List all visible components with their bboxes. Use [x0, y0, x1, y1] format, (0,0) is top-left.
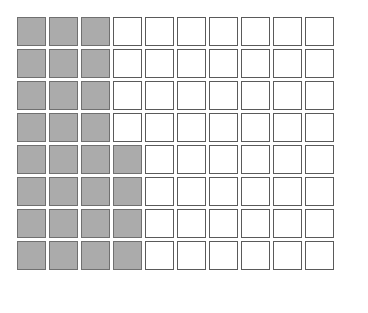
grid-cell-shaded[interactable] — [81, 209, 110, 238]
grid-cell-empty[interactable] — [177, 113, 206, 142]
grid-cell-empty[interactable] — [145, 49, 174, 78]
grid-cell-empty[interactable] — [241, 209, 270, 238]
grid-cell-empty[interactable] — [209, 49, 238, 78]
grid-cell-shaded[interactable] — [49, 177, 78, 206]
grid-row — [17, 177, 334, 206]
grid-cell-empty[interactable] — [177, 17, 206, 46]
grid-row — [17, 17, 334, 46]
grid-cell-shaded[interactable] — [81, 17, 110, 46]
grid-cell-empty[interactable] — [305, 145, 334, 174]
grid-cell-empty[interactable] — [113, 81, 142, 110]
grid-cell-empty[interactable] — [145, 241, 174, 270]
grid-cell-shaded[interactable] — [113, 145, 142, 174]
grid-cell-shaded[interactable] — [17, 209, 46, 238]
grid-cell-empty[interactable] — [305, 81, 334, 110]
grid-cell-empty[interactable] — [241, 81, 270, 110]
grid-cell-empty[interactable] — [241, 145, 270, 174]
grid-cell-empty[interactable] — [177, 241, 206, 270]
grid-cell-shaded[interactable] — [113, 177, 142, 206]
grid-cell-empty[interactable] — [273, 177, 302, 206]
grid-row — [17, 113, 334, 142]
grid-cell-shaded[interactable] — [113, 209, 142, 238]
grid-cell-empty[interactable] — [209, 17, 238, 46]
grid-cell-shaded[interactable] — [81, 145, 110, 174]
grid-cell-empty[interactable] — [145, 177, 174, 206]
grid-cell-empty[interactable] — [145, 209, 174, 238]
grid-cell-shaded[interactable] — [49, 113, 78, 142]
square-grid — [17, 17, 334, 270]
grid-cell-empty[interactable] — [209, 145, 238, 174]
grid-row — [17, 145, 334, 174]
grid-cell-empty[interactable] — [273, 113, 302, 142]
grid-cell-shaded[interactable] — [49, 145, 78, 174]
grid-cell-shaded[interactable] — [17, 177, 46, 206]
grid-cell-empty[interactable] — [241, 113, 270, 142]
grid-row — [17, 49, 334, 78]
grid-cell-empty[interactable] — [273, 17, 302, 46]
grid-cell-empty[interactable] — [145, 81, 174, 110]
grid-cell-empty[interactable] — [209, 241, 238, 270]
grid-cell-shaded[interactable] — [49, 209, 78, 238]
grid-cell-empty[interactable] — [273, 81, 302, 110]
grid-cell-shaded[interactable] — [81, 177, 110, 206]
grid-cell-shaded[interactable] — [49, 49, 78, 78]
grid-cell-shaded[interactable] — [17, 17, 46, 46]
grid-cell-shaded[interactable] — [17, 113, 46, 142]
grid-row — [17, 81, 334, 110]
grid-cell-empty[interactable] — [305, 49, 334, 78]
grid-cell-shaded[interactable] — [113, 241, 142, 270]
grid-cell-empty[interactable] — [177, 145, 206, 174]
grid-cell-empty[interactable] — [209, 113, 238, 142]
grid-cell-shaded[interactable] — [17, 145, 46, 174]
grid-cell-empty[interactable] — [177, 209, 206, 238]
grid-figure — [0, 0, 368, 313]
grid-cell-shaded[interactable] — [17, 241, 46, 270]
grid-row — [17, 241, 334, 270]
grid-cell-empty[interactable] — [145, 113, 174, 142]
grid-cell-empty[interactable] — [241, 49, 270, 78]
grid-cell-empty[interactable] — [305, 113, 334, 142]
grid-cell-empty[interactable] — [273, 145, 302, 174]
grid-cell-empty[interactable] — [177, 177, 206, 206]
grid-cell-empty[interactable] — [177, 49, 206, 78]
grid-cell-empty[interactable] — [209, 177, 238, 206]
grid-cell-empty[interactable] — [305, 241, 334, 270]
grid-cell-empty[interactable] — [209, 209, 238, 238]
grid-cell-empty[interactable] — [241, 241, 270, 270]
grid-cell-empty[interactable] — [177, 81, 206, 110]
grid-cell-shaded[interactable] — [49, 17, 78, 46]
grid-cell-shaded[interactable] — [17, 49, 46, 78]
grid-cell-shaded[interactable] — [49, 241, 78, 270]
grid-cell-empty[interactable] — [305, 177, 334, 206]
grid-cell-empty[interactable] — [273, 209, 302, 238]
grid-cell-empty[interactable] — [145, 145, 174, 174]
grid-cell-shaded[interactable] — [17, 81, 46, 110]
grid-cell-empty[interactable] — [241, 177, 270, 206]
grid-cell-shaded[interactable] — [81, 81, 110, 110]
grid-cell-empty[interactable] — [113, 113, 142, 142]
grid-cell-shaded[interactable] — [81, 113, 110, 142]
grid-cell-empty[interactable] — [305, 209, 334, 238]
grid-cell-empty[interactable] — [241, 17, 270, 46]
grid-cell-empty[interactable] — [273, 49, 302, 78]
grid-cell-shaded[interactable] — [49, 81, 78, 110]
grid-cell-shaded[interactable] — [81, 241, 110, 270]
grid-row — [17, 209, 334, 238]
grid-cell-shaded[interactable] — [81, 49, 110, 78]
grid-cell-empty[interactable] — [113, 49, 142, 78]
grid-cell-empty[interactable] — [209, 81, 238, 110]
grid-cell-empty[interactable] — [145, 17, 174, 46]
grid-cell-empty[interactable] — [273, 241, 302, 270]
grid-cell-empty[interactable] — [113, 17, 142, 46]
grid-cell-empty[interactable] — [305, 17, 334, 46]
